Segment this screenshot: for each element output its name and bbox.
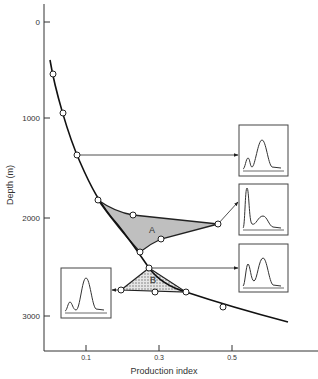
x-tick-0.3: 0.3 bbox=[154, 354, 164, 361]
zone-a-label: A bbox=[149, 225, 155, 235]
depth-production-diagram: 0 1000 2000 3000 Depth (m) 0.1 0.3 0.5 P… bbox=[0, 0, 318, 379]
inset-chromatogram-3 bbox=[239, 244, 288, 292]
x-tick-0.1: 0.1 bbox=[81, 354, 91, 361]
y-axis: 0 1000 2000 3000 Depth (m) bbox=[5, 4, 50, 351]
zone-a-area bbox=[98, 200, 218, 252]
inset-chromatogram-2 bbox=[239, 184, 288, 235]
x-axis-label: Production index bbox=[130, 366, 198, 376]
arrow-to-inset-2 bbox=[218, 202, 238, 224]
inset-chromatogram-1 bbox=[239, 125, 288, 176]
inset-chromatogram-4 bbox=[61, 268, 111, 318]
y-tick-2000: 2000 bbox=[22, 214, 40, 223]
y-axis-label: Depth (m) bbox=[5, 165, 15, 205]
x-tick-0.5: 0.5 bbox=[227, 354, 237, 361]
x-axis: 0.1 0.3 0.5 Production index bbox=[44, 345, 318, 376]
y-tick-0: 0 bbox=[36, 18, 41, 27]
y-tick-3000: 3000 bbox=[22, 312, 40, 321]
zone-b-label: B bbox=[150, 275, 156, 285]
y-tick-1000: 1000 bbox=[22, 114, 40, 123]
